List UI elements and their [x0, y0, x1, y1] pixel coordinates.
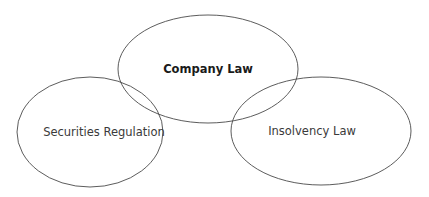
company-law-label: Company Law [163, 62, 253, 76]
insolvency-law-label: Insolvency Law [268, 124, 356, 138]
venn-diagram: Company Law Securities Regulation Insolv… [0, 0, 429, 197]
securities-regulation-label: Securities Regulation [43, 125, 165, 139]
